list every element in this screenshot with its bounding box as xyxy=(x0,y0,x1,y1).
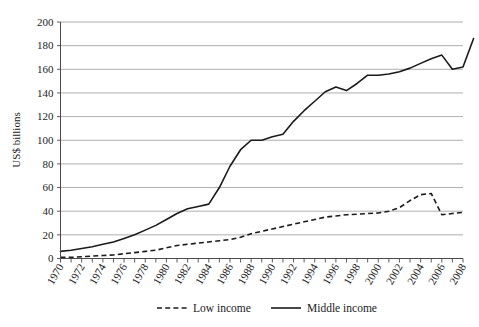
x-tick-label: 1984 xyxy=(193,261,215,286)
y-tick-label: 120 xyxy=(37,110,54,122)
y-tick-label: 80 xyxy=(43,158,55,170)
x-tick-label: 1988 xyxy=(235,261,257,286)
data-series xyxy=(61,39,474,258)
x-tick-label: 2004 xyxy=(404,261,426,286)
series-line-low-income xyxy=(61,193,464,257)
x-axis-tick-labels: 1970197219741976197819801982198419861988… xyxy=(44,261,468,286)
y-tick-label: 140 xyxy=(37,87,54,99)
chart-container: 020406080100120140160180200 197019721974… xyxy=(0,0,479,327)
x-tick-label: 1996 xyxy=(320,261,342,286)
x-tick-label: 1978 xyxy=(129,261,151,286)
y-axis-title: US$ billions xyxy=(10,112,22,167)
series-line-middle-income xyxy=(61,39,474,252)
legend-label-low-income: Low income xyxy=(193,302,251,314)
x-tick-label: 1982 xyxy=(171,262,192,287)
y-tick-label: 60 xyxy=(43,181,55,193)
x-tick-label: 1972 xyxy=(66,262,87,287)
x-tick-label: 1974 xyxy=(87,261,109,286)
x-tick-label: 1992 xyxy=(277,262,298,287)
y-tick-label: 20 xyxy=(43,229,55,241)
x-tick-label: 1980 xyxy=(150,261,172,286)
x-tick-label: 1970 xyxy=(44,261,66,286)
y-tick-label: 40 xyxy=(43,205,55,217)
x-tick-label: 1998 xyxy=(341,261,363,286)
x-tick-label: 1990 xyxy=(256,261,278,286)
y-tick-label: 100 xyxy=(37,134,54,146)
y-tick-label: 180 xyxy=(37,39,54,51)
x-tick-label: 1994 xyxy=(299,261,321,286)
legend: Low incomeMiddle income xyxy=(157,302,377,314)
x-tick-label: 2002 xyxy=(383,262,404,287)
y-tick-label: 200 xyxy=(37,16,54,28)
y-tick-label: 160 xyxy=(37,63,54,75)
x-tick-label: 1986 xyxy=(214,261,236,286)
line-chart: 020406080100120140160180200 197019721974… xyxy=(0,0,479,327)
y-tick-label: 0 xyxy=(48,252,54,264)
legend-label-middle-income: Middle income xyxy=(307,302,377,314)
x-tick-label: 2000 xyxy=(362,261,384,286)
x-tick-label: 2006 xyxy=(426,261,448,286)
x-axis-tick-marks xyxy=(61,259,464,263)
x-tick-label: 1976 xyxy=(108,261,130,286)
x-tick-label: 2008 xyxy=(447,261,469,286)
y-axis-tick-labels: 020406080100120140160180200 xyxy=(37,16,61,264)
